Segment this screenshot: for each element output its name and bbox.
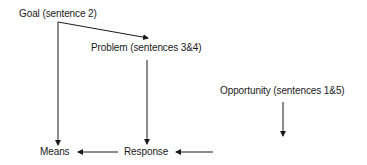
node-means: Means <box>40 146 70 158</box>
node-response: Response <box>124 146 168 158</box>
edge-goal-to-problem <box>58 22 148 38</box>
node-opportunity: Opportunity (sentences 1&5) <box>220 85 345 97</box>
diagram-connectors <box>0 0 367 165</box>
node-problem: Problem (sentences 3&4) <box>91 42 202 54</box>
node-goal: Goal (sentence 2) <box>19 8 97 20</box>
